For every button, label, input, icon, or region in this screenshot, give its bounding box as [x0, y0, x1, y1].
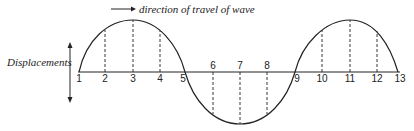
point-label: 5 [180, 73, 186, 84]
point-label: 8 [264, 60, 270, 71]
direction-label: direction of travel of wave [139, 3, 255, 15]
point-label: 1 [76, 73, 82, 84]
wave-diagram: direction of travel of wave Displacement… [0, 0, 414, 131]
point-label: 7 [237, 60, 243, 71]
point-label: 11 [345, 73, 356, 84]
displacements-label: Displacements [6, 56, 72, 68]
direction-arrow-icon [111, 7, 136, 12]
point-label: 12 [371, 73, 383, 84]
displacement-arrow-icon [68, 42, 73, 103]
point-label: 13 [394, 73, 406, 84]
point-label: 4 [157, 73, 163, 84]
point-label: 10 [316, 73, 328, 84]
point-label: 3 [130, 73, 136, 84]
point-label: 2 [102, 73, 108, 84]
point-label: 6 [210, 60, 216, 71]
point-label: 9 [294, 73, 300, 84]
